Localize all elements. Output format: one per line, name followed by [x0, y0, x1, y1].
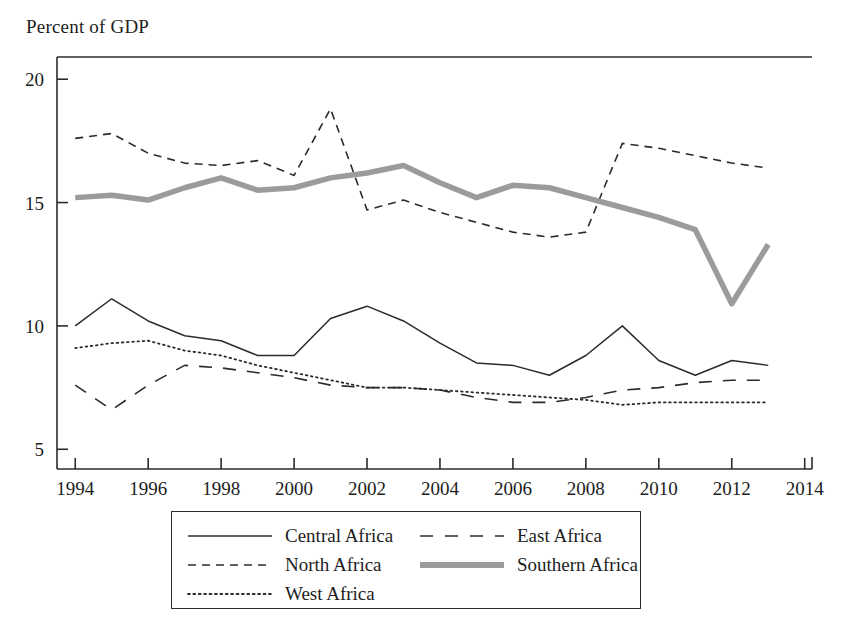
legend-swatch-solid-icon: [186, 529, 274, 543]
legend-item-north-africa[interactable]: North Africa: [186, 555, 418, 574]
x-tick-label: 2012: [713, 478, 751, 499]
x-tick-label: 2008: [567, 478, 605, 499]
legend-label: West Africa: [285, 584, 375, 603]
legend-item-east-africa[interactable]: East Africa: [418, 526, 650, 545]
x-tick-label: 1998: [202, 478, 240, 499]
series-line-southern-africa: [75, 166, 768, 304]
legend-swatch-dash-medium-icon: [186, 558, 274, 572]
legend-items: Central Africa East Africa North Africa …: [172, 512, 640, 608]
x-tick-label: 2006: [494, 478, 532, 499]
legend-label: East Africa: [517, 526, 602, 545]
legend-swatch-thick-icon: [418, 558, 506, 572]
legend-label: Central Africa: [285, 526, 393, 545]
legend-item-west-africa[interactable]: West Africa: [186, 584, 418, 603]
y-tick-label: 5: [35, 439, 45, 460]
y-tick-label: 20: [25, 69, 44, 90]
legend-label: North Africa: [285, 555, 382, 574]
series-line-west-africa: [75, 341, 768, 405]
x-tick-label: 2000: [275, 478, 313, 499]
legend-label: Southern Africa: [517, 555, 638, 574]
legend-swatch-dash-long-icon: [418, 529, 506, 543]
legend-item-central-africa[interactable]: Central Africa: [186, 526, 418, 545]
legend-item-southern-africa[interactable]: Southern Africa: [418, 555, 650, 574]
series-line-central-africa: [75, 299, 768, 375]
x-tick-label: 2014: [786, 478, 825, 499]
x-tick-label: 2002: [348, 478, 386, 499]
x-tick-label: 2010: [640, 478, 678, 499]
legend-swatch-dotted-icon: [186, 587, 274, 601]
x-tick-label: 1996: [129, 478, 167, 499]
x-tick-label: 1994: [56, 478, 95, 499]
x-tick-label: 2004: [421, 478, 460, 499]
y-tick-label: 15: [25, 193, 44, 214]
x-axis-ticks: 1994199619982000200220042006200820102012…: [56, 458, 824, 499]
y-tick-label: 10: [25, 316, 44, 337]
plot-area: 5101520 19941996199820002002200420062008…: [0, 0, 846, 500]
axes: [57, 57, 812, 469]
legend: Central Africa East Africa North Africa …: [171, 511, 641, 609]
data-series-group: [75, 109, 768, 410]
y-axis-ticks: 5101520: [25, 69, 68, 460]
chart-figure: Percent of GDP 5101520 19941996199820002…: [0, 0, 846, 635]
